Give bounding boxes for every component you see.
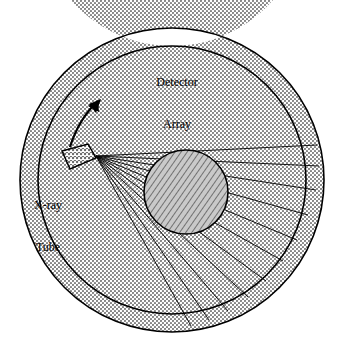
xray-tube-label-line2: Tube bbox=[16, 240, 80, 254]
detector-array-label: Detector Array bbox=[137, 47, 217, 159]
ct-scanner-diagram: Detector Array X-ray Tube bbox=[0, 0, 344, 359]
detector-array-label-line1: Detector bbox=[137, 75, 217, 89]
xray-tube-label-line1: X-ray bbox=[16, 198, 80, 212]
xray-tube-label: X-ray Tube bbox=[16, 170, 80, 282]
detector-array-label-line2: Array bbox=[137, 117, 217, 131]
phantom-object bbox=[144, 150, 228, 234]
